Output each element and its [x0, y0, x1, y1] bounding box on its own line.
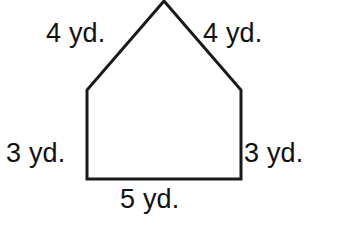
side-label-wall-left: 3 yd. [6, 140, 66, 167]
geometry-figure: 4 yd. 4 yd. 3 yd. 3 yd. 5 yd. [0, 0, 339, 230]
side-label-roof-left: 4 yd. [46, 20, 106, 47]
side-label-roof-right: 4 yd. [203, 20, 263, 47]
side-label-base: 5 yd. [120, 186, 180, 213]
side-label-wall-right: 3 yd. [244, 140, 304, 167]
